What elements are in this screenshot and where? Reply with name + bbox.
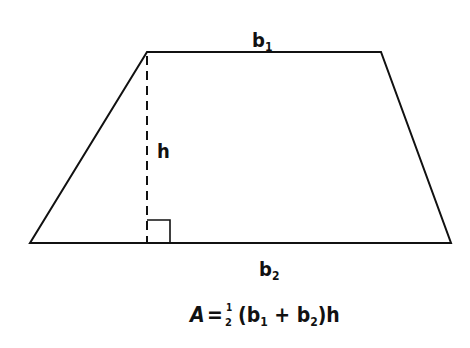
area-formula: A = 1 2 (b1 + b2)h [188, 302, 340, 329]
fraction-denominator: 2 [225, 316, 232, 329]
trapezoid-shape [30, 52, 451, 243]
trapezoid-diagram: b1 h b2 A = 1 2 (b1 + b2)h [0, 0, 470, 348]
formula-equals: = [207, 303, 223, 327]
formula-lhs: A [188, 303, 205, 327]
formula-rhs: (b1 + b2)h [238, 303, 340, 329]
top-base-label: b1 [252, 28, 272, 54]
right-angle-marker [147, 220, 170, 243]
bottom-base-label: b2 [259, 257, 279, 283]
height-label: h [157, 139, 170, 163]
fraction-numerator: 1 [226, 302, 232, 313]
